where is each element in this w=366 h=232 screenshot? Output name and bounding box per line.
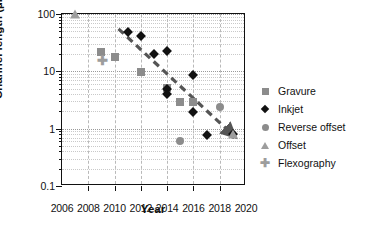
legend-label: Gravure: [278, 85, 316, 97]
y-axis-tick: [56, 186, 62, 187]
x-axis-tick: [193, 186, 194, 191]
plot-area: 0.1110100 200620082010201220142016201820…: [61, 13, 245, 185]
y-axis-tick-label: 10: [43, 65, 55, 77]
y-axis-tick-label: 1: [49, 123, 55, 135]
y-axis-tick-label: 0.1: [40, 180, 55, 192]
x-axis-tick: [141, 186, 142, 191]
legend-item-reverse-offset[interactable]: Reverse offset: [258, 118, 346, 136]
x-axis-tick: [115, 186, 116, 191]
data-point-offset: [228, 130, 238, 139]
x-axis-tick: [88, 186, 89, 191]
diamond-marker-icon: [258, 106, 272, 112]
chart-legend: GravureInkjetReverse offsetOffset✚Flexog…: [258, 82, 346, 172]
legend-item-offset[interactable]: Offset: [258, 136, 346, 154]
data-point-flexography: ✚: [97, 55, 106, 64]
y-axis-title: Channel length (µm): [0, 0, 4, 99]
data-point-gravure: [176, 98, 184, 106]
data-point-reverse-offset: [176, 137, 184, 145]
legend-item-inkjet[interactable]: Inkjet: [258, 100, 346, 118]
data-point-gravure: [189, 98, 197, 106]
legend-item-flexography[interactable]: ✚Flexography: [258, 154, 346, 172]
trend-arrow-annotation: [62, 14, 246, 186]
data-point-gravure: [137, 68, 145, 76]
chart-figure: Channel length (µm) Year 0.1110100 20062…: [0, 0, 366, 232]
triangle-marker-icon: [258, 142, 272, 149]
legend-label: Flexography: [278, 157, 336, 169]
data-point-gravure: [111, 53, 119, 61]
legend-item-gravure[interactable]: Gravure: [258, 82, 346, 100]
y-axis-tick-label: 100: [37, 8, 55, 20]
legend-label: Offset: [278, 139, 306, 151]
legend-label: Inkjet: [278, 103, 303, 115]
x-axis-tick: [167, 186, 168, 191]
x-axis-tick: [220, 186, 221, 191]
data-point-reverse-offset: [216, 103, 224, 111]
data-point-offset: [70, 10, 80, 19]
square-marker-icon: [258, 88, 272, 95]
plus-marker-icon: ✚: [258, 158, 272, 168]
x-axis-tick-label: 2020: [226, 202, 266, 214]
legend-label: Reverse offset: [278, 121, 346, 133]
circle-marker-icon: [258, 124, 272, 131]
